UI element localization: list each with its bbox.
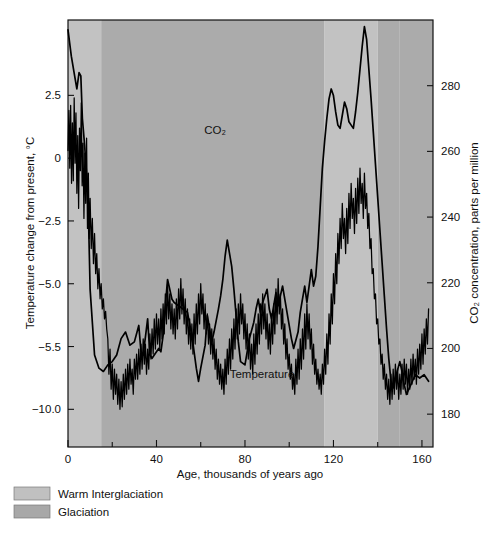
- x-axis-title: Age, thousands of years ago: [177, 468, 323, 480]
- legend-swatch-warm-interglaciation: [14, 487, 50, 500]
- x-tick-label-0: 0: [65, 453, 71, 465]
- y-axis-left-title: Temperature change from present, °C: [24, 137, 36, 330]
- left-tick-label-5: −10.0: [32, 403, 61, 415]
- right-tick-label-1: 260: [441, 145, 460, 157]
- left-tick-label-0: 2.5: [45, 89, 61, 101]
- right-tick-label-0: 280: [441, 80, 460, 92]
- climate-chart: 2.50−2.5−5.0−5.5−10.0 280260240220200180…: [0, 0, 495, 536]
- left-tick-label-2: −2.5: [38, 215, 61, 227]
- legend-label-glaciation: Glaciation: [58, 506, 109, 518]
- band-glacial-1: [101, 20, 324, 447]
- right-tick-label-5: 180: [441, 408, 460, 420]
- right-tick-label-4: 200: [441, 342, 460, 354]
- left-tick-label-1: 0: [55, 152, 61, 164]
- band-warm-0: [68, 20, 101, 447]
- figure-container: 2.50−2.5−5.0−5.5−10.0 280260240220200180…: [0, 0, 495, 536]
- left-tick-label-4: −5.5: [38, 341, 61, 353]
- y-axis-right-title: CO₂ concentration, parts per million: [468, 142, 480, 324]
- left-tick-label-3: −5.0: [38, 278, 61, 290]
- x-tick-label-2: 80: [239, 453, 252, 465]
- legend-label-warm-interglaciation: Warm Interglaciation: [58, 488, 163, 500]
- legend-swatch-glaciation: [14, 505, 50, 518]
- co2-series-label: CO₂: [204, 124, 226, 136]
- x-tick-label-3: 120: [324, 453, 343, 465]
- right-tick-label-3: 220: [441, 277, 460, 289]
- x-tick-label-1: 40: [150, 453, 163, 465]
- x-tick-label-4: 160: [412, 453, 431, 465]
- right-tick-label-2: 240: [441, 211, 460, 223]
- temperature-series-label: Temperature: [230, 368, 295, 380]
